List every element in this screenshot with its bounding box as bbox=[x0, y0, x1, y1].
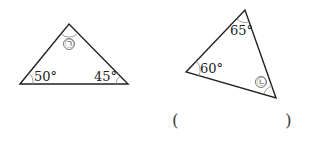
angle-label-nieun: ㉡ bbox=[257, 77, 266, 87]
answer-blank[interactable] bbox=[185, 110, 285, 132]
triangle-right: ㉡ 65° 60° bbox=[186, 10, 276, 98]
arc-top bbox=[237, 19, 249, 23]
arc-bottom-right-right-triangle bbox=[264, 86, 272, 94]
angle-label-60: 60° bbox=[200, 61, 223, 76]
angle-label-giyeok: ㉠ bbox=[65, 39, 74, 49]
answer-close-paren: ) bbox=[285, 110, 292, 130]
angle-label-65: 65° bbox=[230, 23, 253, 38]
answer-open-paren: ( bbox=[172, 110, 179, 130]
arc-top-left-triangle bbox=[61, 33, 78, 37]
angle-label-50: 50° bbox=[34, 69, 57, 84]
angle-label-45: 45° bbox=[94, 69, 117, 84]
arc-bottom-left bbox=[29, 73, 33, 84]
triangle-left: ㉠ 50° 45° bbox=[20, 24, 128, 84]
